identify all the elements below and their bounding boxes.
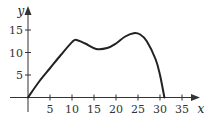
y-axis-arrow-icon xyxy=(25,6,32,15)
series-line xyxy=(28,33,164,97)
axes: x y xyxy=(10,4,205,116)
x-tick-label: 25 xyxy=(131,103,145,116)
y-axis-label: y xyxy=(17,4,25,18)
x-tick-label: 30 xyxy=(153,103,167,116)
x-tick-label: 5 xyxy=(47,103,54,116)
y-tick-label: 15 xyxy=(9,24,23,37)
y-tick-label: 5 xyxy=(16,69,23,82)
x-axis-arrow-icon xyxy=(191,94,200,101)
x-tick-label: 20 xyxy=(109,103,123,116)
chart: x y 5101520253035 51015 xyxy=(0,0,207,125)
x-tick-label: 10 xyxy=(65,103,79,116)
x-tick-label: 15 xyxy=(87,103,101,116)
x-tick-label: 35 xyxy=(175,103,189,116)
y-tick-label: 10 xyxy=(9,47,23,60)
x-axis-label: x xyxy=(198,102,205,116)
